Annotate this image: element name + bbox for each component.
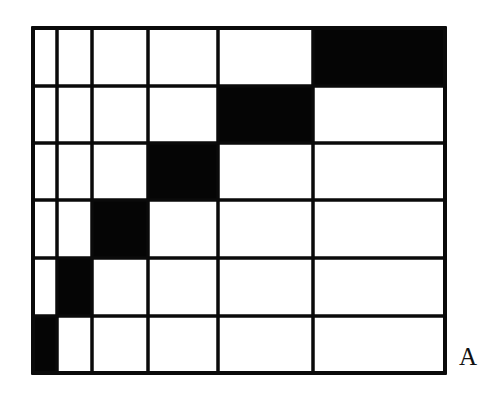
filled-cell [33, 316, 57, 373]
filled-cell [92, 200, 148, 258]
figure-label: A [459, 343, 477, 371]
filled-cell [218, 86, 313, 143]
diagonal-grid-diagram [0, 0, 490, 400]
filled-cell [57, 258, 92, 316]
filled-cell [148, 143, 218, 200]
filled-cell [313, 28, 445, 86]
